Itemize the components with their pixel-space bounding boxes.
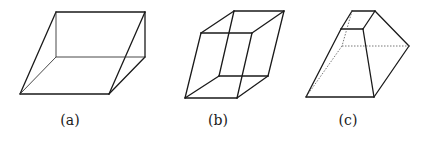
figure-a-oblique-prism — [20, 12, 145, 94]
figure-b-label: (b) — [208, 112, 228, 128]
figure-c-frustum — [306, 11, 409, 97]
figure-canvas: (a) (b) (c) — [0, 0, 425, 143]
figure-b-parallelepiped — [185, 11, 284, 98]
figure-a-label: (a) — [60, 112, 79, 128]
figure-c-label: (c) — [339, 112, 358, 128]
